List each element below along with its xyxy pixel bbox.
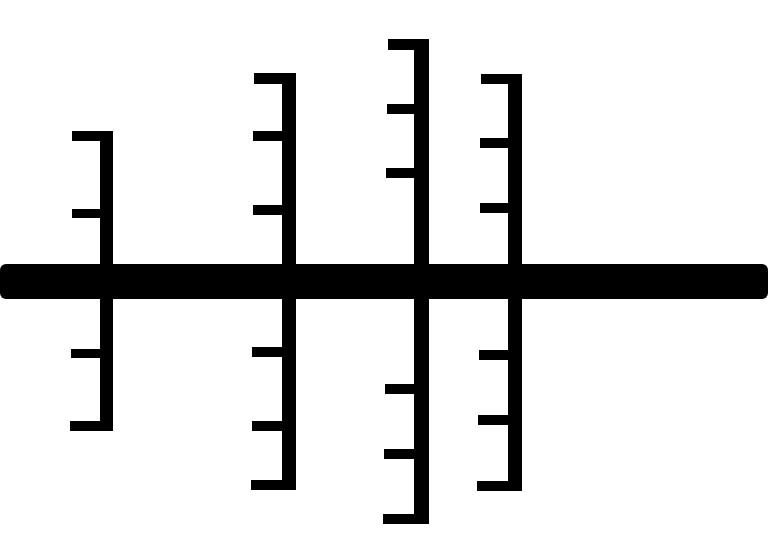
tick-mark xyxy=(481,74,522,84)
vertical-bar xyxy=(414,39,429,524)
tick-mark xyxy=(385,384,415,394)
vertical-bar xyxy=(282,73,296,490)
tick-mark xyxy=(387,104,416,114)
tick-mark xyxy=(72,131,113,141)
tick-mark xyxy=(479,350,509,360)
tick-mark xyxy=(70,421,112,431)
tick-mark xyxy=(251,480,295,490)
tick-mark xyxy=(252,347,284,357)
tick-mark xyxy=(72,209,102,218)
tick-mark xyxy=(386,168,416,178)
tick-mark xyxy=(480,203,510,213)
horizontal-spine-bar xyxy=(0,264,768,299)
tick-mark xyxy=(480,138,510,148)
tick-mark xyxy=(71,349,102,358)
tick-mark xyxy=(478,415,509,425)
tick-mark xyxy=(388,39,429,50)
tick-mark xyxy=(254,73,296,84)
tick-mark xyxy=(384,449,415,459)
fishbone-ruler-diagram xyxy=(0,0,768,559)
tick-mark xyxy=(252,421,284,431)
tick-mark xyxy=(477,481,521,491)
tick-mark xyxy=(253,205,284,215)
tick-mark xyxy=(383,514,427,524)
tick-mark xyxy=(253,131,284,141)
vertical-bar xyxy=(100,131,113,431)
vertical-bar xyxy=(508,74,522,491)
